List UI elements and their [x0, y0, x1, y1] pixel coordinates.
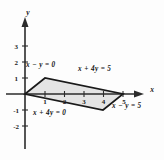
y-tick-label-3: 3	[15, 43, 19, 51]
x-axis-arrowhead	[134, 91, 144, 98]
y-tick-label-1: 1	[15, 75, 19, 83]
constraint-label-x-plus-4y-0: x + 4y = 0	[33, 110, 66, 117]
y-tick-label-neg2: -2	[13, 123, 19, 131]
x-tick-label-4: 4	[102, 98, 106, 106]
y-axis-arrowhead	[22, 17, 29, 27]
x-tick-label-2: 2	[63, 98, 67, 106]
constraint-label-x-plus-4y-5: x + 4y = 5	[78, 66, 111, 73]
constraint-label-x-minus-y-0: x − y = 0	[26, 62, 56, 69]
constraint-label-x-minus-y-5: x − y = 5	[112, 103, 142, 110]
x-tick-label-1: 1	[43, 98, 47, 106]
coordinate-plot: y x 1 2 3 4 5 1 2 3 -1 -2	[0, 0, 164, 160]
y-tick-label-2: 2	[15, 59, 19, 67]
graph-figure: y x 1 2 3 4 5 1 2 3 -1 -2 x − y = 0 x + …	[0, 0, 164, 160]
y-tick-label-neg1: -1	[13, 107, 19, 115]
x-axis-label: x	[149, 85, 154, 94]
x-tick-label-3: 3	[82, 98, 86, 106]
y-axis-label: y	[25, 8, 30, 17]
